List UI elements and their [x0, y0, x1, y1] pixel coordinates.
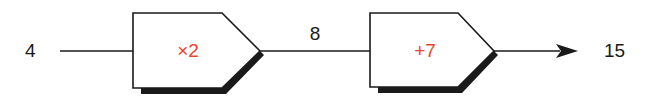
machine-2-operation: +7 — [414, 40, 436, 61]
input-value: 4 — [25, 40, 36, 61]
intermediate-value: 8 — [310, 23, 321, 44]
output-value: 15 — [604, 40, 625, 61]
function-machine-diagram: 4 ×2 8 +7 15 — [0, 0, 654, 99]
machine-1-operation: ×2 — [177, 40, 199, 61]
